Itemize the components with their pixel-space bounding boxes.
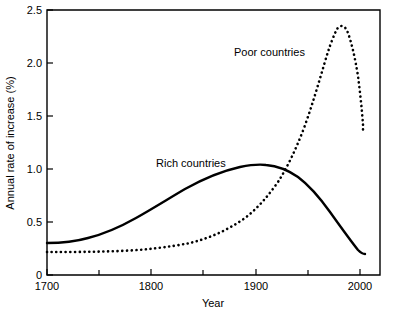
y-tick-label-0-5: 0.5 [27, 216, 42, 228]
y-axis-tick-labels: 0 0.5 1.0 1.5 2.0 2.5 [27, 4, 42, 281]
series-poor-countries-curve [47, 26, 363, 252]
annotation-poor-countries: Poor countries [234, 46, 305, 58]
x-axis-title: Year [202, 297, 225, 309]
line-chart: 0 0.5 1.0 1.5 2.0 2.5 1700 1800 1900 200… [0, 0, 399, 313]
x-tick-label-1700: 1700 [35, 280, 59, 292]
chart-figure: 0 0.5 1.0 1.5 2.0 2.5 1700 1800 1900 200… [0, 0, 399, 313]
x-tick-label-1800: 1800 [139, 280, 163, 292]
y-tick-label-1-5: 1.5 [27, 110, 42, 122]
series-rich-countries-curve [47, 165, 365, 254]
annotation-rich-countries: Rich countries [156, 157, 226, 169]
y-axis-title: Annual rate of increase (%) [4, 76, 16, 209]
y-tick-label-1-0: 1.0 [27, 163, 42, 175]
x-tick-label-1900: 1900 [244, 280, 268, 292]
y-axis-ticks [47, 10, 53, 275]
y-tick-label-2-5: 2.5 [27, 4, 42, 16]
x-tick-label-2000: 2000 [348, 280, 372, 292]
x-axis-ticks [47, 269, 360, 275]
x-axis-tick-labels: 1700 1800 1900 2000 [35, 280, 372, 292]
y-tick-label-2-0: 2.0 [27, 57, 42, 69]
